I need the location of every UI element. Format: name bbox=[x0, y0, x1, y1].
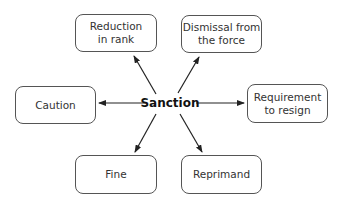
arrow-to-dismissal bbox=[178, 57, 199, 93]
arrow-to-fine bbox=[135, 114, 156, 152]
node-fine: Fine bbox=[75, 155, 157, 194]
node-caution: Caution bbox=[15, 86, 96, 124]
node-reduction-in-rank: Reduction in rank bbox=[75, 14, 157, 52]
node-reprimand: Reprimand bbox=[181, 155, 262, 194]
node-requirement-to-resign: Requirement to resign bbox=[247, 84, 328, 123]
central-node-sanction: Sanction bbox=[140, 96, 199, 110]
arrow-to-reduction bbox=[134, 56, 156, 94]
arrow-to-reprimand bbox=[180, 114, 202, 152]
node-dismissal-from-force: Dismissal from the force bbox=[181, 15, 262, 53]
